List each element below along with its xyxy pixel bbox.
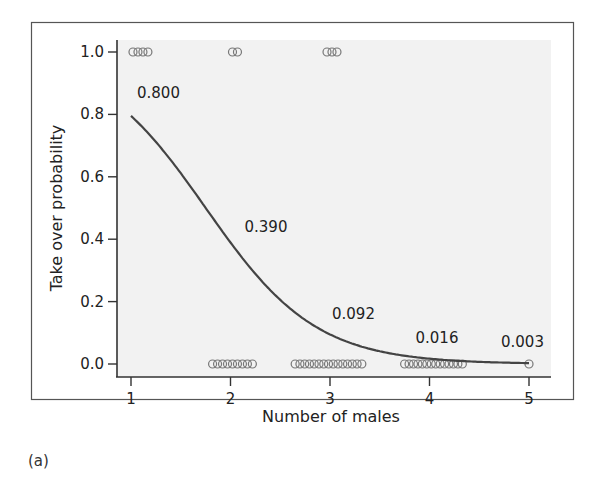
y-tick-label: 0.8: [80, 105, 104, 123]
point-value-label: 0.016: [416, 329, 459, 347]
x-tick-label: 2: [226, 390, 236, 408]
point-value-label: 0.390: [245, 218, 288, 236]
plot-area: [117, 40, 551, 377]
x-tick-label: 5: [524, 390, 534, 408]
x-tick-label: 4: [425, 390, 435, 408]
x-axis-label: Number of males: [262, 407, 400, 426]
x-tick-label: 1: [126, 390, 136, 408]
point-value-label: 0.092: [332, 305, 375, 323]
chart: 0.00.20.40.60.81.012345 0.8000.3900.0920…: [0, 0, 597, 479]
point-value-label: 0.003: [501, 333, 544, 351]
y-tick-label: 0.6: [80, 168, 104, 186]
y-tick-label: 0.2: [80, 293, 104, 311]
x-tick-label: 3: [325, 390, 335, 408]
point-value-label: 0.800: [137, 84, 180, 102]
panel-label: (a): [28, 452, 49, 470]
y-tick-label: 0.0: [80, 355, 104, 373]
y-axis-label: Take over probability: [47, 125, 66, 293]
y-tick-label: 1.0: [80, 43, 104, 61]
y-tick-label: 0.4: [80, 230, 104, 248]
